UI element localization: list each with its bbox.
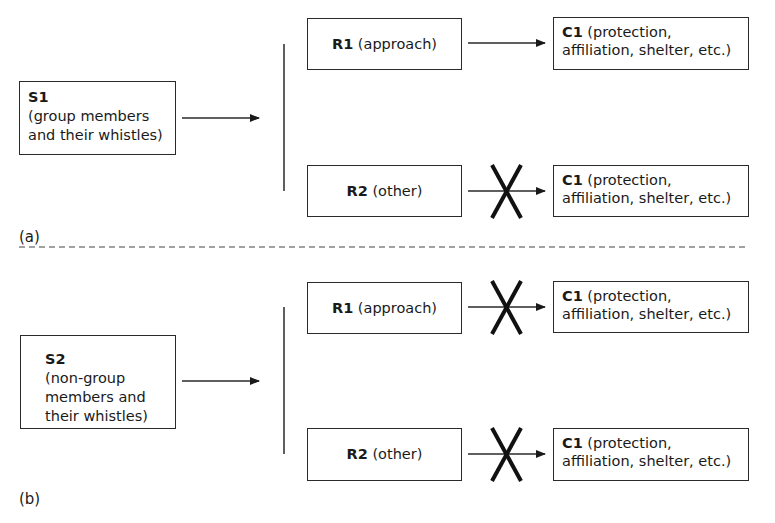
stimulus-code: S1 (28, 89, 49, 105)
consequence-desc-line1: (protection, (587, 435, 671, 451)
stimulus-desc-line2: and their whistles) (28, 126, 175, 145)
stimulus-desc-line2: members and (45, 388, 175, 407)
consequence-desc-line1: (protection, (587, 288, 671, 304)
consequence-code: C1 (562, 172, 583, 188)
response-code: R1 (332, 300, 353, 316)
consequence-desc-line1: (protection, (587, 24, 671, 40)
stimulus-desc-line3: their whistles) (45, 407, 175, 426)
panel-label-b: (b) (19, 490, 40, 508)
response-box-r1-a: R1 (approach) (307, 18, 462, 70)
response-desc: (other) (372, 183, 422, 199)
response-desc: (approach) (358, 36, 437, 52)
response-box-r1-b: R1 (approach) (307, 282, 462, 334)
response-code: R1 (332, 36, 353, 52)
consequence-desc-line1: (protection, (587, 172, 671, 188)
response-box-r2-b: R2 (other) (307, 428, 462, 481)
response-code: R2 (347, 446, 368, 462)
consequence-box-r1-b: C1 (protection, affiliation, shelter, et… (553, 281, 749, 333)
consequence-box-r1-a: C1 (protection, affiliation, shelter, et… (553, 17, 749, 70)
consequence-desc-line2: affiliation, shelter, etc.) (562, 452, 748, 470)
consequence-desc-line2: affiliation, shelter, etc.) (562, 41, 748, 59)
consequence-box-r2-a: C1 (protection, affiliation, shelter, et… (553, 165, 749, 217)
response-desc: (other) (372, 446, 422, 462)
stimulus-code: S2 (45, 351, 66, 367)
response-desc: (approach) (358, 300, 437, 316)
consequence-code: C1 (562, 24, 583, 40)
stimulus-box-s2: S2 (non-group members and their whistles… (20, 335, 176, 429)
stimulus-box-s1: S1 (group members and their whistles) (19, 81, 176, 155)
consequence-code: C1 (562, 288, 583, 304)
consequence-desc-line2: affiliation, shelter, etc.) (562, 305, 748, 323)
response-code: R2 (347, 183, 368, 199)
stimulus-desc-line1: (non-group (45, 369, 175, 388)
panel-label-a: (a) (19, 228, 40, 246)
response-box-r2-a: R2 (other) (307, 165, 462, 217)
consequence-code: C1 (562, 435, 583, 451)
consequence-box-r2-b: C1 (protection, affiliation, shelter, et… (553, 428, 749, 481)
consequence-desc-line2: affiliation, shelter, etc.) (562, 189, 748, 207)
stimulus-desc-line1: (group members (28, 107, 175, 126)
